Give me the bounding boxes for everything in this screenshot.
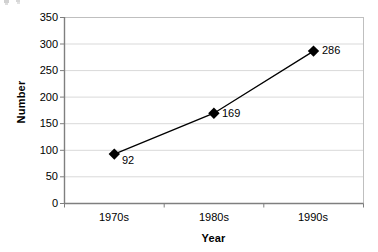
y-axis-tick-labels: 350 300 250 200 150 100 50 0: [22, 0, 58, 252]
y-axis-ticks: [60, 18, 64, 204]
y-tick-label: 100: [24, 145, 58, 156]
x-tick-label-1970s: 1970s: [79, 211, 149, 223]
data-point-label-1980s: 169: [222, 108, 240, 119]
y-tick-label: 50: [24, 171, 58, 182]
line-chart: 350 300 250 200 150 100 50 0 1970s 1980s…: [0, 0, 378, 252]
data-point-label-1990s: 286: [322, 45, 340, 56]
y-tick-label: 150: [24, 118, 58, 129]
y-tick-label: 0: [24, 198, 58, 209]
y-tick-label: 200: [24, 92, 58, 103]
y-axis-title: Number: [15, 62, 27, 142]
x-axis-title: Year: [64, 232, 363, 244]
x-tick-label-1980s: 1980s: [179, 211, 249, 223]
x-tick-label-1990s: 1990s: [278, 211, 348, 223]
data-point-label-1970s: 92: [122, 155, 134, 166]
y-tick-label: 300: [24, 39, 58, 50]
y-tick-label: 350: [24, 12, 58, 23]
y-tick-label: 250: [24, 65, 58, 76]
